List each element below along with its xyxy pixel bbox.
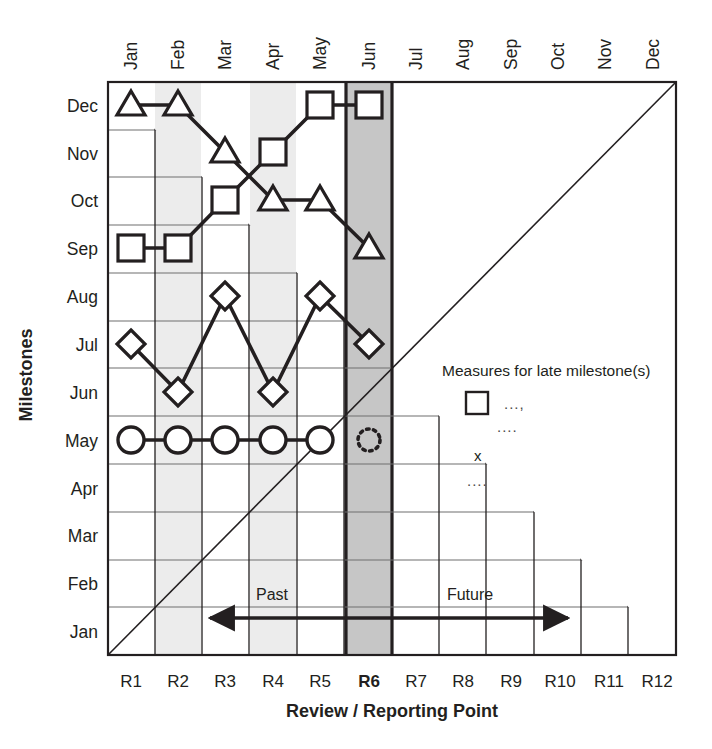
x-tick-r7: R7 (405, 672, 427, 691)
y-tick-mar: Mar (68, 526, 98, 546)
x-tick-r10: R10 (544, 672, 575, 691)
y-tick-oct: Oct (71, 191, 98, 211)
y-tick-jun: Jun (70, 383, 98, 403)
top-axis-tick-feb: Feb (168, 40, 188, 70)
y-tick-apr: Apr (71, 479, 98, 499)
legend-title: Measures for late milestone(s) (442, 362, 650, 379)
top-axis-tick-mar: Mar (215, 40, 235, 70)
y-axis-title: Milestones (16, 328, 36, 421)
milestone-trend-chart: Past Future Measures for late milestone(… (0, 0, 712, 749)
top-axis-tick-nov: Nov (595, 39, 615, 70)
x-tick-r9: R9 (500, 672, 522, 691)
y-tick-feb: Feb (68, 574, 98, 594)
x-tick-r11: R11 (594, 672, 624, 691)
top-axis-tick-jan: Jan (121, 42, 141, 70)
future-label: Future (447, 586, 493, 603)
y-tick-sep: Sep (67, 239, 98, 259)
legend-entry-3-label: .... (467, 472, 488, 489)
y-axis-tick-labels: Dec Nov Oct Sep Aug Jul Jun May Apr Mar … (65, 96, 98, 642)
top-axis-month-labels: Jan Feb Mar Apr May Jun Jul Aug Sep Oct … (121, 37, 663, 70)
x-tick-r1: R1 (120, 672, 142, 691)
top-axis-tick-apr: Apr (263, 43, 283, 70)
past-label: Past (256, 586, 289, 603)
top-axis-tick-jul: Jul (406, 48, 426, 70)
x-tick-r4: R4 (262, 672, 284, 691)
top-axis-tick-sep: Sep (501, 39, 521, 70)
x-axis-tick-labels: R1 R2 R3 R4 R5 R6 R7 R8 R9 R10 R11 R12 (120, 672, 672, 691)
top-axis-tick-oct: Oct (548, 43, 568, 70)
x-tick-r5: R5 (309, 672, 331, 691)
legend-entry-1-label: .... (497, 418, 518, 435)
x-tick-r6: R6 (358, 672, 380, 691)
top-axis-tick-may: May (310, 37, 330, 70)
y-tick-jul: Jul (76, 335, 98, 355)
y-tick-jan: Jan (70, 622, 98, 642)
chart-canvas: Past Future Measures for late milestone(… (0, 0, 712, 749)
y-tick-dec: Dec (67, 96, 98, 116)
y-tick-aug: Aug (67, 287, 98, 307)
x-tick-r12: R12 (641, 672, 672, 691)
legend-x-icon: x (474, 447, 482, 464)
x-tick-r3: R3 (214, 672, 236, 691)
x-tick-r2: R2 (167, 672, 189, 691)
top-axis-tick-dec: Dec (643, 39, 663, 70)
top-axis-tick-aug: Aug (453, 39, 473, 70)
x-axis-title: Review / Reporting Point (286, 701, 498, 721)
legend-entry-0-label: ..., (504, 395, 525, 412)
top-axis-tick-jun: Jun (359, 42, 379, 70)
legend-square-icon (466, 392, 488, 414)
x-tick-r8: R8 (452, 672, 474, 691)
y-tick-may: May (65, 431, 98, 451)
y-tick-nov: Nov (67, 144, 98, 164)
legend: Measures for late milestone(s) ..., ....… (442, 362, 650, 489)
